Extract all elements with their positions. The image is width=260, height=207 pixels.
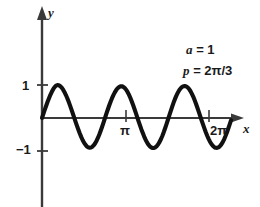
y-axis-arrowhead — [37, 6, 47, 20]
sine-curve — [42, 85, 231, 148]
annotation-period-value: = 2π/3 — [193, 63, 232, 78]
y-tick-label-1: 1 — [22, 79, 29, 92]
annotation-amplitude-symbol: a — [186, 42, 193, 57]
x-tick-label-2pi: 2π — [210, 124, 227, 137]
annotation-amplitude-value: = 1 — [196, 42, 214, 57]
annotation-period-symbol: p — [183, 63, 190, 78]
annotation-period: p = 2π/3 — [183, 64, 232, 77]
x-axis-label: x — [243, 122, 250, 135]
plot-canvas — [0, 0, 260, 207]
x-tick-label-pi: π — [120, 124, 130, 137]
sine-wave-figure: 1 −1 y x π 2π a = 1 p = 2π/3 — [0, 0, 260, 207]
y-axis-label: y — [48, 6, 54, 19]
annotation-amplitude: a = 1 — [186, 43, 215, 56]
y-tick-label-minus-1: −1 — [16, 143, 31, 156]
